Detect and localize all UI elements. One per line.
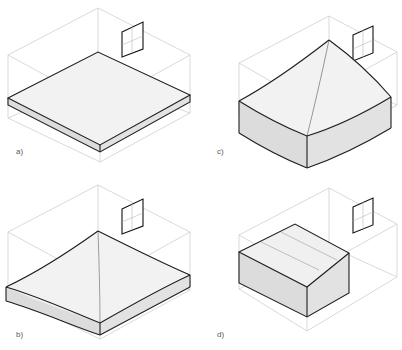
slab-surface-elevated bbox=[239, 224, 349, 317]
panel-d: d) bbox=[201, 175, 402, 350]
slab-surface-curved bbox=[239, 40, 391, 168]
slab-surface-warped bbox=[6, 231, 190, 335]
wall-window bbox=[122, 199, 143, 234]
panel-c-drawing bbox=[201, 0, 402, 175]
panel-b-drawing bbox=[0, 175, 201, 350]
panel-label-a: a) bbox=[16, 148, 23, 156]
panel-label-b: b) bbox=[16, 331, 23, 339]
panel-c: c) bbox=[201, 0, 402, 175]
panel-d-drawing bbox=[201, 175, 402, 350]
figure-sheet: a) bbox=[0, 0, 402, 350]
panel-label-d: d) bbox=[217, 331, 224, 339]
panel-b: b) bbox=[0, 175, 201, 350]
figure-caption bbox=[0, 340, 402, 350]
panel-a-drawing bbox=[0, 0, 201, 175]
wall-window bbox=[353, 198, 373, 233]
wall-window bbox=[353, 26, 373, 61]
wall-window bbox=[122, 22, 143, 57]
panel-a: a) bbox=[0, 0, 201, 175]
slab-surface-flat bbox=[8, 52, 190, 152]
panel-label-c: c) bbox=[217, 148, 224, 156]
